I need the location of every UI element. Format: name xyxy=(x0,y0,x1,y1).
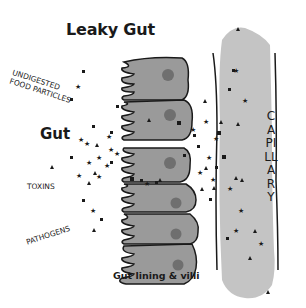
svg-text:★: ★ xyxy=(114,150,120,158)
svg-text:★: ★ xyxy=(76,172,82,180)
svg-text:★: ★ xyxy=(96,154,102,162)
svg-text:★: ★ xyxy=(242,97,248,105)
svg-text:★: ★ xyxy=(144,180,150,188)
label-capillary: CAPILLARY xyxy=(264,110,278,205)
svg-text:★: ★ xyxy=(210,176,216,184)
svg-text:★: ★ xyxy=(213,135,219,143)
svg-text:★: ★ xyxy=(86,159,92,167)
svg-text:★: ★ xyxy=(233,67,239,75)
diagram-title: Leaky Gut xyxy=(66,20,155,39)
svg-text:★: ★ xyxy=(206,154,212,162)
gut-lining-cells xyxy=(120,58,199,285)
label-toxins: TOXINS xyxy=(27,182,55,191)
leaky-gut-diagram: ★ ★ ★ ★ ★ ★ ★ ★ ★ ★ ★ ★ ★ ★ ★ ★ ★ ★ ★ ★ … xyxy=(0,0,306,308)
svg-text:★: ★ xyxy=(258,240,264,248)
svg-text:★: ★ xyxy=(104,162,110,170)
svg-text:★: ★ xyxy=(233,227,239,235)
svg-text:★: ★ xyxy=(227,185,233,193)
svg-text:★: ★ xyxy=(238,207,244,215)
svg-text:★: ★ xyxy=(84,140,90,148)
svg-text:★: ★ xyxy=(75,83,81,91)
label-gut-lining-villi: Gut lining & villi xyxy=(113,270,200,281)
diagram-artwork: ★ ★ ★ ★ ★ ★ ★ ★ ★ ★ ★ ★ ★ ★ ★ ★ ★ ★ ★ ★ … xyxy=(0,0,306,308)
svg-text:★: ★ xyxy=(190,126,196,134)
svg-text:★: ★ xyxy=(197,169,203,177)
svg-text:★: ★ xyxy=(106,133,112,141)
svg-text:★: ★ xyxy=(96,173,102,181)
svg-text:★: ★ xyxy=(203,118,209,126)
label-gut: Gut xyxy=(40,125,70,143)
svg-text:★: ★ xyxy=(90,207,96,215)
